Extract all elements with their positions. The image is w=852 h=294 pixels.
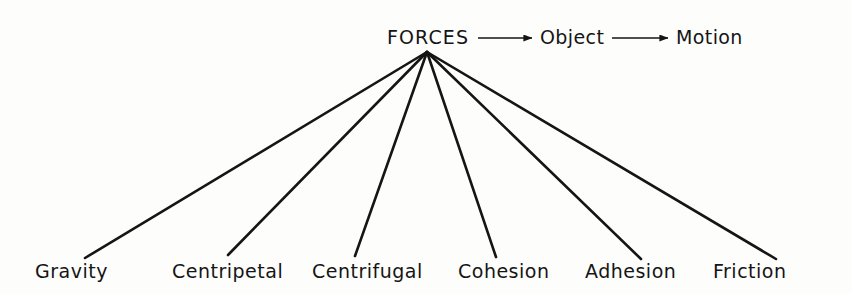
branch-label-centripetal: Centripetal [172, 262, 283, 281]
node-label-object: Object [540, 28, 604, 47]
forces-diagram: FORCES Object Motion Gravity Centripetal… [0, 0, 852, 294]
branch-label-cohesion: Cohesion [458, 262, 549, 281]
node-label-motion: Motion [676, 28, 743, 47]
branch-label-friction: Friction [713, 262, 786, 281]
branch-label-centrifugal: Centrifugal [312, 262, 423, 281]
branch-label-adhesion: Adhesion [585, 262, 676, 281]
branch-line-centrifugal [355, 52, 427, 256]
branch-line-cohesion [427, 52, 496, 257]
root-node-label-forces: FORCES [387, 28, 469, 47]
branch-label-gravity: Gravity [35, 262, 108, 281]
branch-lines [85, 52, 776, 259]
branch-line-friction [427, 52, 776, 259]
branch-line-adhesion [427, 52, 641, 259]
